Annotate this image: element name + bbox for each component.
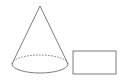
cone-base-back-dashed-arc bbox=[12, 55, 68, 64]
geometry-diagram bbox=[0, 0, 121, 82]
cone bbox=[12, 6, 68, 73]
cone-left-slant-edge bbox=[12, 6, 40, 64]
rectangle bbox=[73, 51, 116, 74]
cone-base-front-arc bbox=[12, 64, 68, 73]
cone-right-slant-edge bbox=[40, 6, 68, 64]
